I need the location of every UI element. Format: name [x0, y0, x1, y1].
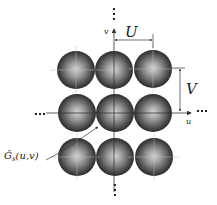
dots-right: [197, 110, 199, 112]
dots-top: [113, 8, 115, 10]
v-period-label: V: [186, 82, 197, 97]
u-period-label: U: [125, 25, 138, 40]
sphere-row-1: [57, 50, 172, 89]
dots-bottom: [114, 184, 116, 186]
sphere-lattice-diagram: U V v u Ĝs(u,v): [0, 0, 217, 205]
function-symbol: Ĝ: [4, 150, 12, 161]
function-label: Ĝs(u,v): [4, 151, 39, 163]
dots-left: [35, 113, 37, 115]
u-axis-label: u: [186, 118, 191, 126]
function-args: (u,v): [16, 150, 39, 161]
v-period-dimension: [172, 68, 185, 111]
v-axis-label: v: [104, 28, 109, 36]
